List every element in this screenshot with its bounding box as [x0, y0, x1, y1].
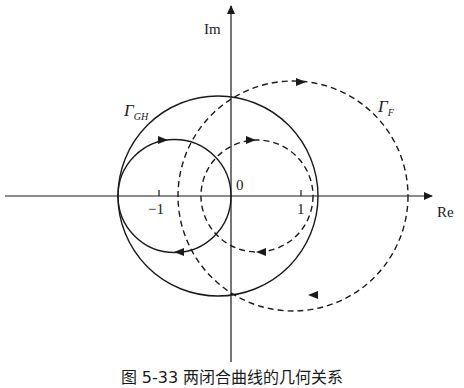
imag-axis-label: Im: [204, 22, 221, 37]
figure-caption: 图 5-33 两闭合曲线的几何关系: [0, 364, 464, 388]
arrow-f-inner-top: [246, 136, 256, 144]
arrow-f-outer-top: [296, 78, 306, 86]
gamma-f-label: ΓF: [378, 98, 394, 118]
gamma-f-subscript: F: [388, 107, 394, 118]
arrow-gh-inner-bottom: [174, 248, 184, 256]
real-axis-label: Re: [437, 205, 454, 220]
arrow-f-outer-bottom: [308, 291, 318, 299]
gamma-f-symbol: Γ: [378, 97, 388, 116]
tick-label-pos-one: 1: [297, 202, 305, 217]
gamma-gh-label: ΓGH: [124, 102, 148, 122]
tick-label-neg-one: −1: [148, 202, 164, 217]
gamma-gh-symbol: Γ: [124, 101, 134, 120]
arrow-f-inner-bottom: [256, 248, 266, 256]
arrow-gh-inner-top: [158, 136, 168, 144]
origin-label: 0: [236, 178, 244, 193]
gamma-gh-subscript: GH: [134, 111, 148, 122]
